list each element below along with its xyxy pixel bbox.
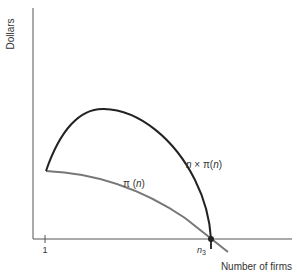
tick-label-1: 1	[42, 245, 47, 255]
chart-canvas: Dollars Number of firms 1 n3 n × π(n) π …	[0, 0, 297, 274]
n3-intersection-point	[208, 236, 214, 242]
total-profit-label: n × π(n)	[186, 159, 222, 170]
per-firm-profit-label: π (n)	[123, 178, 145, 189]
x-axis-label: Number of firms	[221, 261, 292, 272]
y-axis-label: Dollars	[5, 18, 16, 49]
tick-label-n3: n3	[197, 245, 206, 256]
